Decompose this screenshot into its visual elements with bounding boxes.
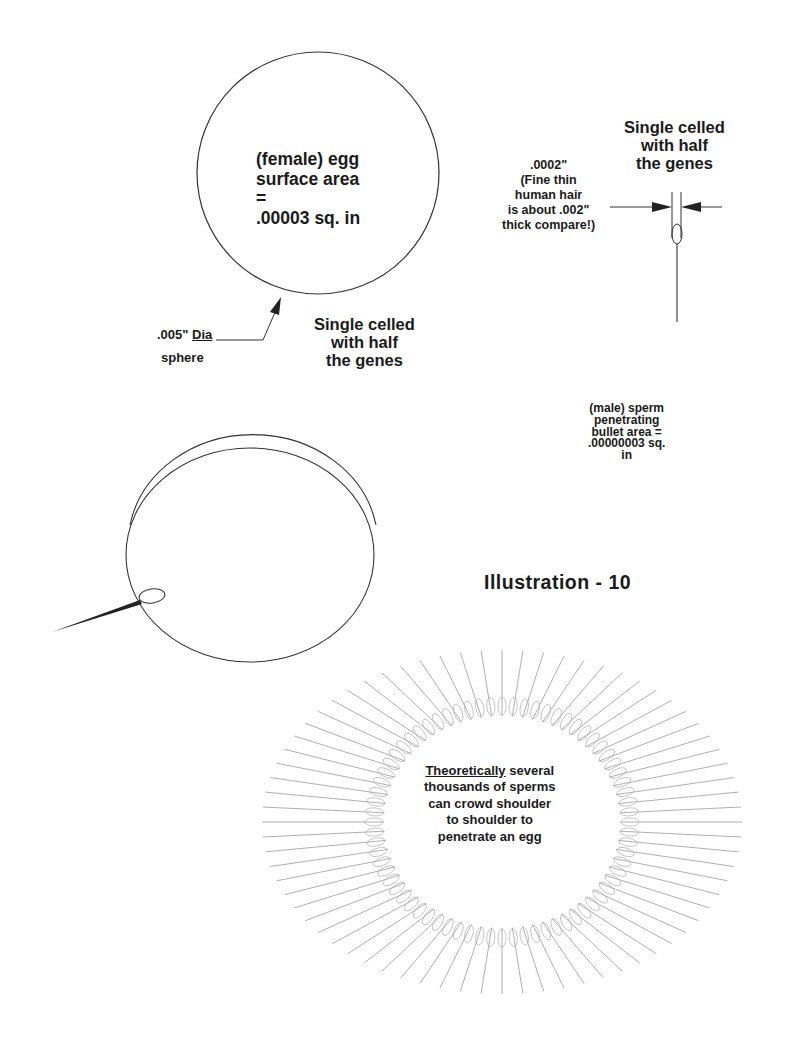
egg-diameter-label: .005" Dia sphere xyxy=(157,328,212,365)
illustration-title: Illustration - 10 xyxy=(484,572,631,593)
egg-surface-area-label: (female) egg surface area = .00003 sq. i… xyxy=(256,150,360,228)
sperm-dimension-diagram xyxy=(610,192,722,322)
diameter-leader-arrow xyxy=(216,297,281,340)
sperm-area-label: (male) sperm penetrating bullet area = .… xyxy=(588,403,665,462)
ring-note: Theoretically several thousands of sperm… xyxy=(424,763,555,845)
sperm-caption: Single celled with half the genes xyxy=(624,119,725,172)
sperm-width-label: .0002" (Fine thin human hair is about .0… xyxy=(502,158,595,233)
egg-3d-penetration-diagram xyxy=(52,435,376,662)
egg-caption: Single celled with half the genes xyxy=(314,316,415,369)
